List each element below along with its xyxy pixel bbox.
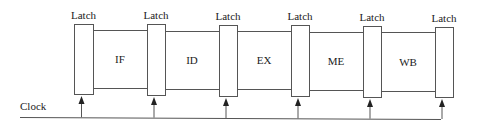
clock-arrow-icon [223,98,229,118]
latch-label-1: Latch [71,10,96,21]
latch-label-3: Latch [215,11,240,22]
latch-label-4: Latch [287,11,312,22]
clock-line [20,118,441,120]
stage-label-if: IF [115,54,125,65]
clock-arrow-icon [367,99,373,119]
latch-4 [292,26,310,97]
stage-label-me: ME [328,56,345,67]
latch-6 [436,28,454,98]
latch-2 [148,25,166,96]
clock-signal [20,96,445,120]
latch-label-5: Latch [359,12,384,23]
clock-label: Clock [20,101,46,112]
latch-label-6: Latch [431,13,456,24]
clock-arrow-icon [79,96,85,117]
clock-arrow-icon [295,98,301,118]
stage-label-ex: EX [257,55,272,66]
latch-label-2: Latch [143,10,168,21]
latch-5 [364,27,382,98]
latch-1 [75,25,94,95]
stage-label-wb: WB [399,56,417,67]
clock-arrow-icon [439,99,445,119]
latch-3 [220,26,238,97]
stage-label-id: ID [186,55,198,66]
clock-arrow-icon [151,97,157,118]
